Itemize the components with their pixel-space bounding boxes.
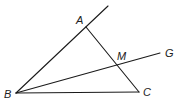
segment-AC	[86, 27, 139, 92]
label-A: A	[75, 14, 83, 26]
segment-BC	[16, 92, 139, 93]
label-G: G	[165, 47, 174, 59]
label-B: B	[4, 88, 11, 100]
triangle-diagram: A M G B C	[0, 0, 189, 111]
label-M: M	[117, 50, 127, 62]
label-C: C	[143, 86, 151, 98]
